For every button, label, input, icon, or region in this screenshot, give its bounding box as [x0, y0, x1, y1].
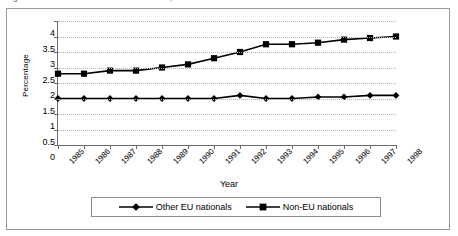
- x-axis-tick: [396, 145, 397, 149]
- gridline: [58, 130, 396, 131]
- x-axis-tick-labels: 1985198619871988198919901991199219931994…: [57, 147, 395, 177]
- x-axis-tick-label: 1997: [379, 147, 398, 166]
- x-axis-tick-label: 1998: [405, 147, 424, 166]
- x-axis-tick-label: 1992: [249, 147, 268, 166]
- x-axis-tick-label: 1996: [353, 147, 372, 166]
- gridline: [58, 52, 396, 53]
- y-axis-tick: [54, 37, 58, 38]
- gridline: [58, 114, 396, 115]
- plot-area: [57, 21, 396, 146]
- legend-key-diamond-icon: [119, 202, 153, 212]
- x-axis-tick-label: 1989: [171, 147, 190, 166]
- y-axis-tick-labels: 00.511.522.533.54: [29, 21, 55, 145]
- gridline: [58, 21, 396, 22]
- y-axis-tick: [54, 83, 58, 84]
- x-axis-tick-label: 1994: [301, 147, 320, 166]
- y-axis-tick: [54, 52, 58, 53]
- gridline: [58, 68, 396, 69]
- legend-item-other-eu-nationals: Other EU nationals: [119, 202, 232, 212]
- data-point-square: [55, 71, 61, 77]
- chart-legend: Other EU nationals Non-EU nationals: [91, 197, 381, 217]
- x-axis-title: Year: [7, 179, 451, 189]
- data-point-square: [81, 71, 87, 77]
- data-point-square: [289, 41, 295, 47]
- series-2: [55, 33, 399, 76]
- y-axis-tick: [54, 99, 58, 100]
- x-axis-tick-label: 1985: [67, 147, 86, 166]
- legend-key-square-icon: [246, 202, 280, 212]
- gridline: [58, 83, 396, 84]
- x-axis-tick-label: 1990: [197, 147, 216, 166]
- x-axis-tick-label: 1991: [223, 147, 242, 166]
- chart-plot-wrapper: Percentage 00.511.522.533.54 19851986198…: [7, 9, 451, 231]
- gridline: [58, 37, 396, 38]
- gridline: [58, 99, 396, 100]
- x-axis-tick-label: 1987: [119, 147, 138, 166]
- legend-label: Other EU nationals: [156, 202, 232, 212]
- figure-caption-cropped: Figure 1.1 Share of non-nationals in the…: [0, 0, 458, 7]
- chart-frame: Percentage 00.511.522.533.54 19851986198…: [6, 8, 450, 230]
- legend-item-non-eu-nationals: Non-EU nationals: [246, 202, 354, 212]
- y-axis-tick: [54, 21, 58, 22]
- data-point-square: [315, 40, 321, 46]
- legend-label: Non-EU nationals: [283, 202, 354, 212]
- y-axis-tick: [54, 130, 58, 131]
- y-axis-tick-label: 0: [50, 152, 55, 162]
- y-axis-tick: [54, 114, 58, 115]
- x-axis-tick-label: 1995: [327, 147, 346, 166]
- data-point-square: [263, 41, 269, 47]
- series-1: [55, 92, 400, 102]
- data-point-square: [211, 55, 217, 61]
- x-axis-tick-label: 1986: [93, 147, 112, 166]
- x-axis-tick-label: 1988: [145, 147, 164, 166]
- x-axis-tick-label: 1993: [275, 147, 294, 166]
- y-axis-tick: [54, 68, 58, 69]
- figure-caption-text: Figure 1.1 Share of non-nationals in the…: [6, 0, 213, 2]
